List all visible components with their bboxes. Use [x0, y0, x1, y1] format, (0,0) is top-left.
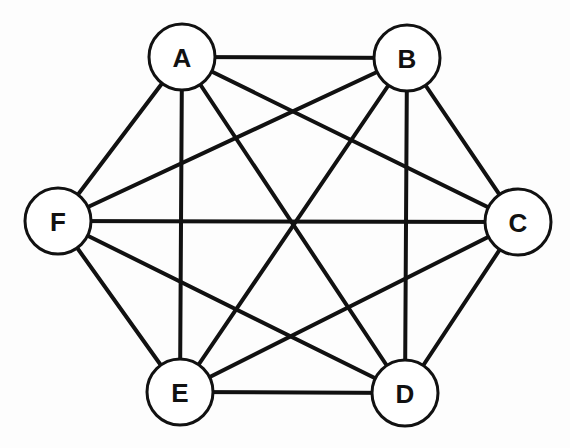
node-a: A — [149, 24, 215, 90]
node-label: A — [173, 43, 192, 73]
edge-c-f — [58, 221, 518, 222]
graph-canvas: ABCDEF — [0, 0, 570, 448]
graph-diagram: ABCDEF — [0, 0, 570, 448]
edge-b-d — [405, 58, 407, 393]
node-f: F — [25, 188, 91, 254]
node-d: D — [372, 360, 438, 426]
node-b: B — [374, 25, 440, 91]
node-c: C — [485, 189, 551, 255]
node-label: F — [50, 207, 66, 237]
edge-a-e — [180, 57, 182, 392]
node-label: B — [398, 44, 417, 74]
node-e: E — [147, 359, 213, 425]
node-label: C — [509, 208, 528, 238]
node-label: E — [171, 378, 188, 408]
nodes-layer: ABCDEF — [25, 24, 551, 426]
node-label: D — [396, 379, 415, 409]
edges-layer — [58, 57, 518, 393]
